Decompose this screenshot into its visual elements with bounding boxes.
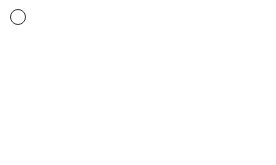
coordinate-plane-figure [0,0,276,165]
coordinate-grid [0,0,276,165]
